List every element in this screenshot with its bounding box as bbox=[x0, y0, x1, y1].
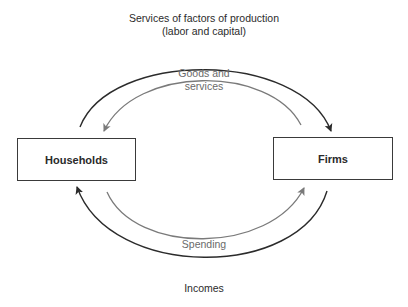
factor-services-label: Services of factors of production (labor… bbox=[104, 12, 304, 38]
goods-services-line1: Goods and bbox=[154, 67, 254, 80]
goods-services-line2: services bbox=[154, 80, 254, 93]
firms-box: Firms bbox=[273, 137, 393, 180]
goods-services-label: Goods and services bbox=[154, 67, 254, 93]
firms-label: Firms bbox=[318, 153, 348, 165]
households-box: Households bbox=[17, 138, 136, 181]
factor-services-line1: Services of factors of production bbox=[104, 12, 304, 25]
factor-services-line2: (labor and capital) bbox=[104, 25, 304, 38]
spending-label: Spending bbox=[154, 238, 254, 251]
households-label: Households bbox=[45, 154, 108, 166]
incomes-label: Incomes bbox=[154, 282, 254, 295]
spending-arrow bbox=[107, 188, 304, 239]
